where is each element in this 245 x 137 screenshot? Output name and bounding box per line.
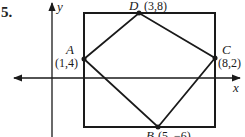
label-a-name: A bbox=[65, 42, 74, 57]
label-c-coords: (8,2) bbox=[218, 56, 241, 70]
coordinate-diagram: y x A (1,4) D (3,8) C (8,2) B (5, −6) bbox=[0, 0, 245, 137]
label-c-name: C bbox=[222, 42, 231, 57]
label-b-coords: (5, −6) bbox=[158, 129, 191, 137]
quadrilateral-abcd bbox=[84, 13, 215, 127]
point-c bbox=[213, 56, 218, 61]
bounding-rectangle bbox=[84, 13, 215, 127]
label-a-coords: (1,4) bbox=[55, 56, 78, 70]
label-b-name: B bbox=[146, 128, 154, 137]
label-d-coords: (3,8) bbox=[144, 0, 167, 13]
x-axis-label: x bbox=[232, 80, 239, 95]
point-a bbox=[82, 57, 87, 62]
y-axis-label: y bbox=[55, 0, 63, 14]
label-d-name: D bbox=[128, 0, 139, 13]
